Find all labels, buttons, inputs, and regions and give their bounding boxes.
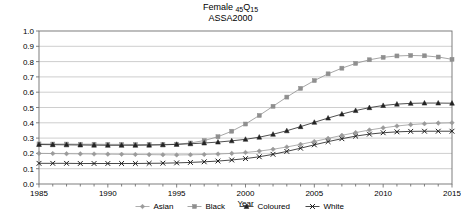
data-point-diamond xyxy=(216,152,221,157)
data-point-diamond xyxy=(92,152,97,157)
data-point-diamond xyxy=(147,152,152,157)
x-tick-label: 1990 xyxy=(99,189,117,198)
data-point-square xyxy=(216,135,220,139)
data-point-square xyxy=(450,57,454,61)
data-point-square xyxy=(230,129,234,133)
legend-item-white[interactable]: White xyxy=(306,202,345,211)
y-tick-label: 0.4 xyxy=(23,119,35,128)
data-point-diamond xyxy=(367,128,372,133)
data-point-square xyxy=(271,104,275,108)
y-tick-label: 0.3 xyxy=(23,134,35,143)
y-tick-label: 0.5 xyxy=(23,104,35,113)
data-point-diamond xyxy=(78,152,83,157)
data-point-diamond xyxy=(422,121,427,126)
data-point-square xyxy=(285,95,289,99)
chart-title: Female 45Q15 xyxy=(0,2,461,13)
data-point-diamond xyxy=(202,152,207,157)
data-point-square xyxy=(257,113,261,117)
data-point-diamond xyxy=(450,121,455,126)
legend-item-black[interactable]: Black xyxy=(188,202,227,211)
data-point-square xyxy=(244,122,248,126)
legend-label: Black xyxy=(206,202,227,211)
data-point-diamond xyxy=(140,204,145,209)
chart-plot-svg: 0.00.10.20.30.40.50.60.70.80.91.0 198519… xyxy=(0,0,461,222)
data-point-square xyxy=(326,72,330,76)
data-point-diamond xyxy=(64,151,69,156)
y-tick-label: 0.2 xyxy=(23,149,35,158)
data-point-diamond xyxy=(436,121,441,126)
chart-subtitle: ASSA2000 xyxy=(0,13,461,24)
data-point-diamond xyxy=(243,150,248,155)
y-tick-label: 0.6 xyxy=(23,88,35,97)
data-point-square xyxy=(422,54,426,58)
y-tick-label: 0.8 xyxy=(23,58,35,67)
x-tick-label: 1995 xyxy=(168,189,186,198)
legend-item-asian[interactable]: Asian xyxy=(136,202,174,211)
data-point-square xyxy=(340,66,344,70)
chart-title-block: Female 45Q15 ASSA2000 xyxy=(0,2,461,24)
data-point-diamond xyxy=(229,151,234,156)
data-point-square xyxy=(193,205,197,209)
data-point-diamond xyxy=(119,152,124,157)
chart-title-sub-pre: 45 xyxy=(235,6,243,13)
data-point-square xyxy=(367,58,371,62)
data-point-diamond xyxy=(37,151,42,156)
legend-label: Asian xyxy=(154,202,174,211)
x-tick-label: 2005 xyxy=(305,189,323,198)
data-point-square xyxy=(409,53,413,57)
x-tick-label: 1985 xyxy=(30,189,48,198)
x-tick-label: 2000 xyxy=(237,189,255,198)
data-point-square xyxy=(436,55,440,59)
data-point-diamond xyxy=(106,152,111,157)
x-tick-label: 2015 xyxy=(443,189,461,198)
data-point-diamond xyxy=(133,152,138,157)
data-point-square xyxy=(312,79,316,83)
y-tick-label: 1.0 xyxy=(23,27,35,36)
data-point-diamond xyxy=(271,147,276,152)
data-series-group xyxy=(37,53,455,165)
y-tick-label: 0.1 xyxy=(23,165,35,174)
data-point-diamond xyxy=(257,149,262,154)
data-point-square xyxy=(381,55,385,59)
data-point-square xyxy=(299,86,303,90)
x-tick-label: 2010 xyxy=(374,189,392,198)
y-axis-tick-labels: 0.00.10.20.30.40.50.60.70.80.91.0 xyxy=(23,27,35,189)
data-point-diamond xyxy=(50,151,55,156)
series-white xyxy=(37,129,455,166)
x-tickmarks-group xyxy=(39,184,452,188)
y-tick-label: 0.0 xyxy=(23,180,35,189)
data-point-diamond xyxy=(381,126,386,131)
chart-title-main: Female xyxy=(203,2,233,12)
legend-label: Coloured xyxy=(258,202,290,211)
data-point-diamond xyxy=(285,145,290,150)
data-point-square xyxy=(395,54,399,58)
data-point-square xyxy=(354,61,358,65)
y-tick-label: 0.9 xyxy=(23,42,35,51)
data-point-diamond xyxy=(395,124,400,129)
x-axis-tick-labels: 1985199019952000200520102015 xyxy=(30,189,461,198)
y-tick-label: 0.7 xyxy=(23,73,35,82)
chart-title-sub-post: 15 xyxy=(250,6,258,13)
chart-figure: Female 45Q15 ASSA2000 0.00.10.20.30.40.5… xyxy=(0,0,461,222)
series-line xyxy=(39,55,452,144)
legend-label: White xyxy=(324,202,345,211)
